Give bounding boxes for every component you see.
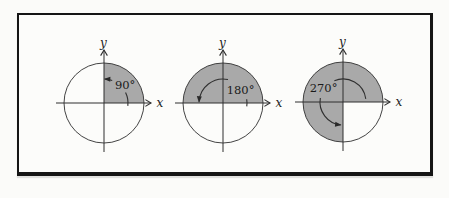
angle-90-diagram: xy90° — [56, 36, 164, 152]
angle-label: 90° — [115, 78, 135, 92]
x-axis-label: x — [276, 96, 283, 110]
figure: { "figure": { "background_color": "#fbfb… — [0, 0, 449, 198]
y-axis-label: y — [99, 36, 107, 50]
angle-180-diagram: xy180° — [175, 36, 283, 152]
x-axis-label: x — [157, 96, 164, 110]
y-axis-label: y — [218, 36, 226, 50]
angle-label: 180° — [227, 83, 255, 97]
x-axis-label: x — [396, 95, 403, 109]
y-axis-label: y — [338, 35, 346, 49]
angle-label: 270° — [310, 81, 338, 95]
figure-canvas: xy90°xy180°xy270° — [0, 0, 449, 198]
angle-270-diagram: xy270° — [295, 35, 403, 151]
